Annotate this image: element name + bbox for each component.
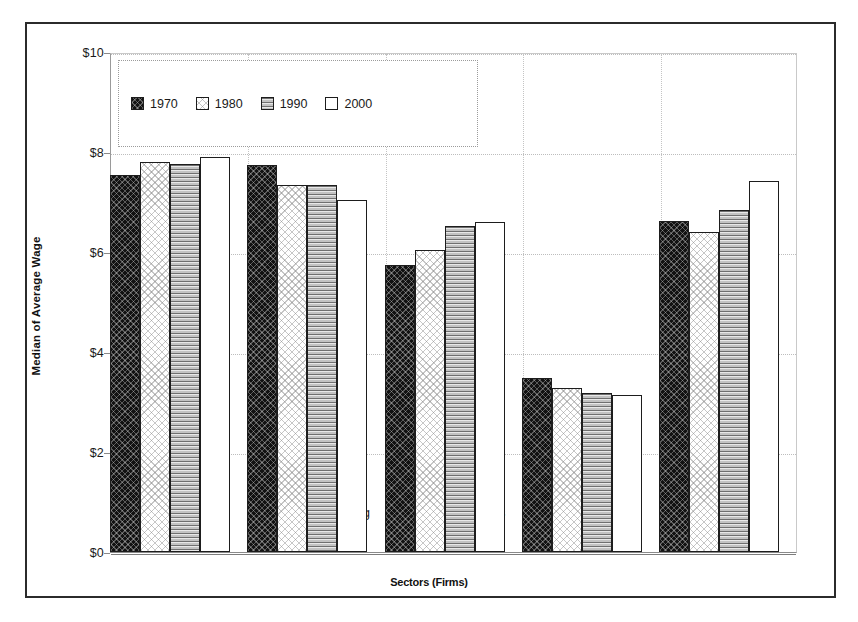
bar-1990-high-end-services[interactable] <box>445 226 475 552</box>
legend-items: 1970198019902000 <box>119 97 477 111</box>
legend-item-1990[interactable]: 1990 <box>261 97 308 111</box>
y-axis-tick-label: $6 <box>58 246 104 260</box>
bar-2000-high-end-services[interactable] <box>475 222 505 552</box>
legend-item-2000[interactable]: 2000 <box>325 97 372 111</box>
chart-legend: 1970198019902000 <box>118 60 478 147</box>
legend-item-1980[interactable]: 1980 <box>196 97 243 111</box>
bar-2000-new-manufacturing[interactable] <box>337 200 367 553</box>
y-axis-tick-label: $10 <box>58 46 104 60</box>
legend-label: 1970 <box>150 97 178 111</box>
bar-1990-old-manufacturing[interactable] <box>170 164 200 553</box>
y-axis-tick-label: $0 <box>58 546 104 560</box>
bar-1970-fire[interactable] <box>659 221 689 552</box>
x-axis-title: Sectors (Firms) <box>0 576 858 588</box>
bar-1990-fire[interactable] <box>719 210 749 553</box>
bar-1990-new-manufacturing[interactable] <box>307 185 337 553</box>
gridline <box>111 154 796 155</box>
legend-label: 1980 <box>215 97 243 111</box>
bar-1970-old-manufacturing[interactable] <box>110 175 140 553</box>
bar-1970-high-end-services[interactable] <box>385 265 415 553</box>
gridline <box>111 54 796 55</box>
y-axis-title: Median of Average Wage <box>30 236 42 375</box>
gridline <box>111 554 796 555</box>
bar-2000-old-manufacturing[interactable] <box>200 157 230 552</box>
legend-item-1970[interactable]: 1970 <box>131 97 178 111</box>
bar-2000-low-end-services[interactable] <box>612 395 642 553</box>
y-axis-tick-label: $8 <box>58 146 104 160</box>
bar-1980-new-manufacturing[interactable] <box>277 185 307 553</box>
bar-chart: Median of Average Wage $0$2$4$6$8$10 197… <box>0 0 858 622</box>
y-axis-tick-mark <box>104 553 110 554</box>
bar-1980-low-end-services[interactable] <box>552 388 582 552</box>
bar-1980-old-manufacturing[interactable] <box>140 162 170 552</box>
bar-2000-fire[interactable] <box>749 181 779 553</box>
legend-label: 1990 <box>280 97 308 111</box>
y-axis-tick-labels: $0$2$4$6$8$10 <box>52 53 104 553</box>
y-axis-tick-label: $2 <box>58 446 104 460</box>
legend-swatch-icon <box>325 97 338 110</box>
legend-swatch-icon <box>131 97 144 110</box>
legend-swatch-icon <box>261 97 274 110</box>
legend-swatch-icon <box>196 97 209 110</box>
y-axis-tick-label: $4 <box>58 346 104 360</box>
bar-1990-low-end-services[interactable] <box>582 393 612 552</box>
bar-1980-high-end-services[interactable] <box>415 250 445 553</box>
bar-1970-low-end-services[interactable] <box>522 378 552 552</box>
bar-1980-fire[interactable] <box>689 232 719 552</box>
legend-label: 2000 <box>344 97 372 111</box>
bar-1970-new-manufacturing[interactable] <box>247 165 277 553</box>
